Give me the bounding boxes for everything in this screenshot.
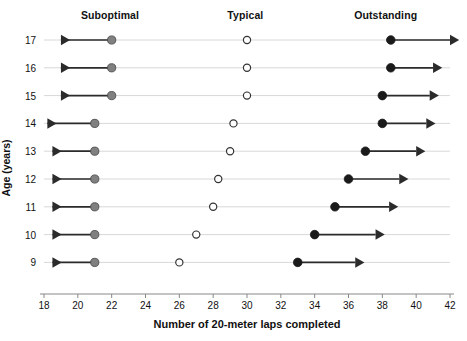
marker-filled-gray-circle-age-17 bbox=[108, 36, 116, 44]
marker-open-circle-age-14 bbox=[230, 120, 237, 127]
marker-filled-black-circle-age-9 bbox=[293, 258, 302, 267]
marker-open-circle-age-15 bbox=[243, 92, 250, 99]
marker-filled-gray-circle-age-12 bbox=[91, 175, 99, 183]
axis-lines bbox=[40, 294, 454, 298]
marker-filled-gray-circle-age-14 bbox=[91, 119, 99, 127]
marker-open-circle-age-13 bbox=[226, 148, 233, 155]
marker-open-circle-age-11 bbox=[210, 203, 217, 210]
zone-chart: SuboptimalTypicalOutstanding 17161514131… bbox=[0, 0, 467, 341]
marker-open-circle-age-16 bbox=[243, 64, 250, 71]
marker-filled-gray-circle-age-10 bbox=[91, 231, 99, 239]
marker-filled-black-circle-age-13 bbox=[361, 147, 370, 156]
marker-open-circle-age-9 bbox=[176, 259, 183, 266]
plot-area bbox=[0, 0, 467, 341]
marker-filled-gray-circle-age-16 bbox=[108, 64, 116, 72]
marker-filled-black-circle-age-12 bbox=[344, 175, 353, 184]
marker-filled-black-circle-age-10 bbox=[310, 230, 319, 239]
marker-filled-gray-circle-age-9 bbox=[91, 258, 99, 266]
marker-filled-black-circle-age-15 bbox=[378, 91, 387, 100]
marker-filled-gray-circle-age-13 bbox=[91, 147, 99, 155]
marker-filled-black-circle-age-17 bbox=[386, 36, 395, 45]
marker-open-circle-age-17 bbox=[243, 36, 250, 43]
marker-filled-gray-circle-age-11 bbox=[91, 203, 99, 211]
marker-filled-black-circle-age-14 bbox=[378, 119, 387, 128]
marker-open-circle-age-12 bbox=[215, 175, 222, 182]
marker-filled-gray-circle-age-15 bbox=[108, 92, 116, 100]
marker-open-circle-age-10 bbox=[193, 231, 200, 238]
marker-filled-black-circle-age-11 bbox=[331, 203, 340, 212]
marker-filled-black-circle-age-16 bbox=[386, 64, 395, 73]
